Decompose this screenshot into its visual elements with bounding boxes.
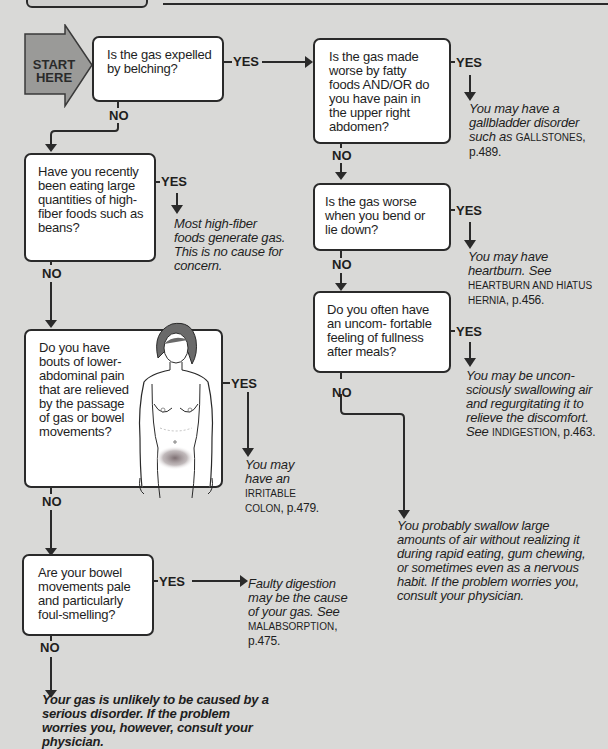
outcome-text: Faulty digestion may be the cause of you… [248,576,347,619]
yes-label: YES [456,325,482,339]
yes-label: YES [231,377,257,391]
question-belching: Is the gas expelled by belching? [92,36,224,102]
start-label-line2: HERE [26,71,82,84]
question-bend-lie-down: Is the gas worse when you bend or lie do… [313,183,451,251]
outcome-text: You probably swallow large amounts of ai… [397,518,586,603]
outcome-swallowing-air: You may be uncon- sciously swallowing ai… [466,369,606,440]
no-label: NO [42,267,62,281]
page-ref: , p.479. [281,501,319,515]
outcome-gallbladder: You may have a gallbladder disorder such… [469,102,601,159]
page-ref: , p.463. [557,425,595,439]
no-label: NO [109,109,129,123]
outcome-malabsorption: Faulty digestion may be the cause of you… [248,577,348,648]
question-text: Is the gas worse when you bend or lie do… [325,194,425,237]
no-label: NO [332,386,352,400]
no-label: NO [40,641,60,655]
outcome-text: Your gas is unlikely to be caused by a s… [42,692,269,749]
outcome-text: Most high-fiber foods generate gas. This… [174,216,285,273]
reference-link: GALLSTONES [516,132,583,143]
start-here-label: START HERE [26,58,82,84]
yes-label: YES [233,55,259,69]
outcome-fiber: Most high-fiber foods generate gas. This… [174,217,286,273]
outcome-heartburn: You may have heartburn. See HEARTBURN AN… [468,250,603,308]
question-text: Is the gas expelled by belching? [107,47,212,76]
page-ref: , p.456. [506,293,544,307]
yes-label: YES [161,175,187,189]
question-fullness: Do you often have an uncom- fortable fee… [313,291,451,373]
question-text: Is the gas made worse by fatty foods AND… [329,49,429,134]
no-label: NO [332,149,352,163]
outcome-irritable-colon: You may have an IRRITABLE COLON, p.479. [245,458,321,516]
yes-label: YES [159,575,185,589]
yes-label: YES [456,56,482,70]
yes-label: YES [456,204,482,218]
question-text: Have you recently been eating large quan… [38,164,143,235]
reference-link: INDIGESTION [492,427,557,438]
question-pale-bowel: Are your bowel movements pale and partic… [22,554,154,636]
outcome-unlikely-serious: Your gas is unlikely to be caused by a s… [42,693,272,749]
no-label: NO [42,495,62,509]
torso-illustration [130,318,220,498]
question-fatty-foods: Is the gas made worse by fatty foods AND… [313,38,451,144]
outcome-swallow-air: You probably swallow large amounts of ai… [397,519,597,603]
reference-link: MALABSORPTION [248,621,334,632]
outcome-text: You may have an [245,457,294,486]
no-label: NO [332,258,352,272]
outcome-text: You may have heartburn. See [468,249,551,278]
question-text: Do you have bouts of lower- abdominal pa… [39,341,134,439]
question-high-fiber: Have you recently been eating large quan… [24,153,156,262]
question-text: Are your bowel movements pale and partic… [38,565,131,622]
question-text: Do you often have an uncom- fortable fee… [327,302,432,359]
